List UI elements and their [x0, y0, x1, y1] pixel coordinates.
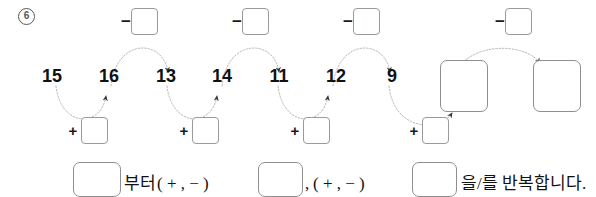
sequence-number: 11	[269, 66, 288, 87]
paren-group-2: ( + , − )	[313, 175, 365, 192]
worksheet-problem: 6 15 16 13 14 11 12 9 − − −	[0, 0, 596, 197]
minus-sign: −	[121, 13, 131, 30]
text-repeat-phrase: 을/를 반복합니다.	[461, 175, 586, 192]
minus-operand-box[interactable]	[242, 8, 269, 35]
sequence-number: 13	[156, 66, 176, 87]
minus-sign: −	[232, 13, 242, 30]
minus-operand-box[interactable]	[353, 8, 380, 35]
minus-operand-box[interactable]	[131, 8, 158, 35]
text-buteo: 부터	[124, 175, 156, 192]
minus-sign: −	[343, 13, 353, 30]
plus-sign: +	[291, 123, 300, 138]
minus-sign: −	[495, 13, 505, 30]
paren-group-1: ( + , − )	[157, 175, 209, 192]
plus-operand-box[interactable]	[81, 117, 108, 144]
answer-sentence-row: 부터 ( + , − ) , ( + , − ) 을/를 반복합니다.	[0, 150, 596, 197]
sequence-number: 9	[387, 66, 397, 87]
plus-sign: +	[180, 123, 189, 138]
plus-sign: +	[69, 123, 78, 138]
sequence-number: 12	[326, 66, 346, 87]
plus-operand-box[interactable]	[422, 117, 449, 144]
plus-operand-box[interactable]	[303, 117, 330, 144]
plus-sign: +	[410, 123, 419, 138]
sequence-blank-box[interactable]	[440, 60, 488, 112]
answer-blank-3[interactable]	[412, 162, 457, 197]
minus-operand-box[interactable]	[505, 8, 532, 35]
answer-blank-2[interactable]	[258, 162, 303, 197]
answer-blank-1[interactable]	[73, 162, 121, 197]
sequence-blank-box[interactable]	[533, 60, 581, 112]
sequence-number: 16	[99, 66, 119, 87]
sequence-number: 14	[212, 66, 232, 87]
comma-separator: ,	[305, 175, 309, 192]
sequence-number: 15	[42, 66, 62, 87]
circled-number-six-icon: 6	[18, 8, 35, 25]
plus-operand-box[interactable]	[192, 117, 219, 144]
